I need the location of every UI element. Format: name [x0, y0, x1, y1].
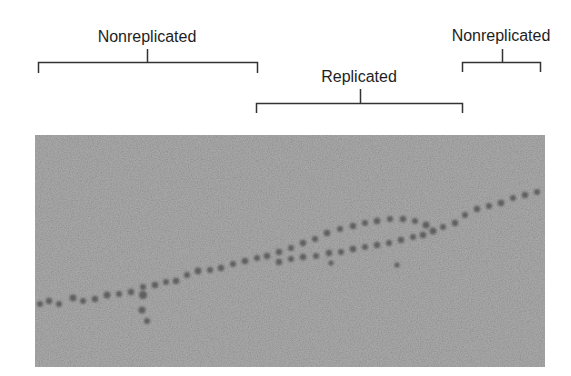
bracket-nonreplicated-left — [39, 49, 258, 73]
bracket-replicated — [257, 89, 463, 113]
electron-micrograph — [35, 135, 545, 367]
bracket-nonreplicated-right — [463, 49, 541, 72]
bracket-annotations — [0, 0, 571, 135]
